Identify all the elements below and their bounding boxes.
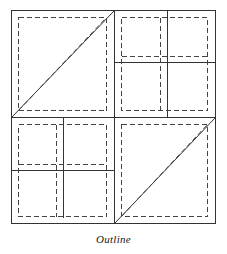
outline-figure: Outline [0, 0, 227, 254]
figure-background [0, 0, 227, 254]
outline-diagram [0, 0, 227, 254]
figure-caption: Outline [0, 232, 227, 246]
